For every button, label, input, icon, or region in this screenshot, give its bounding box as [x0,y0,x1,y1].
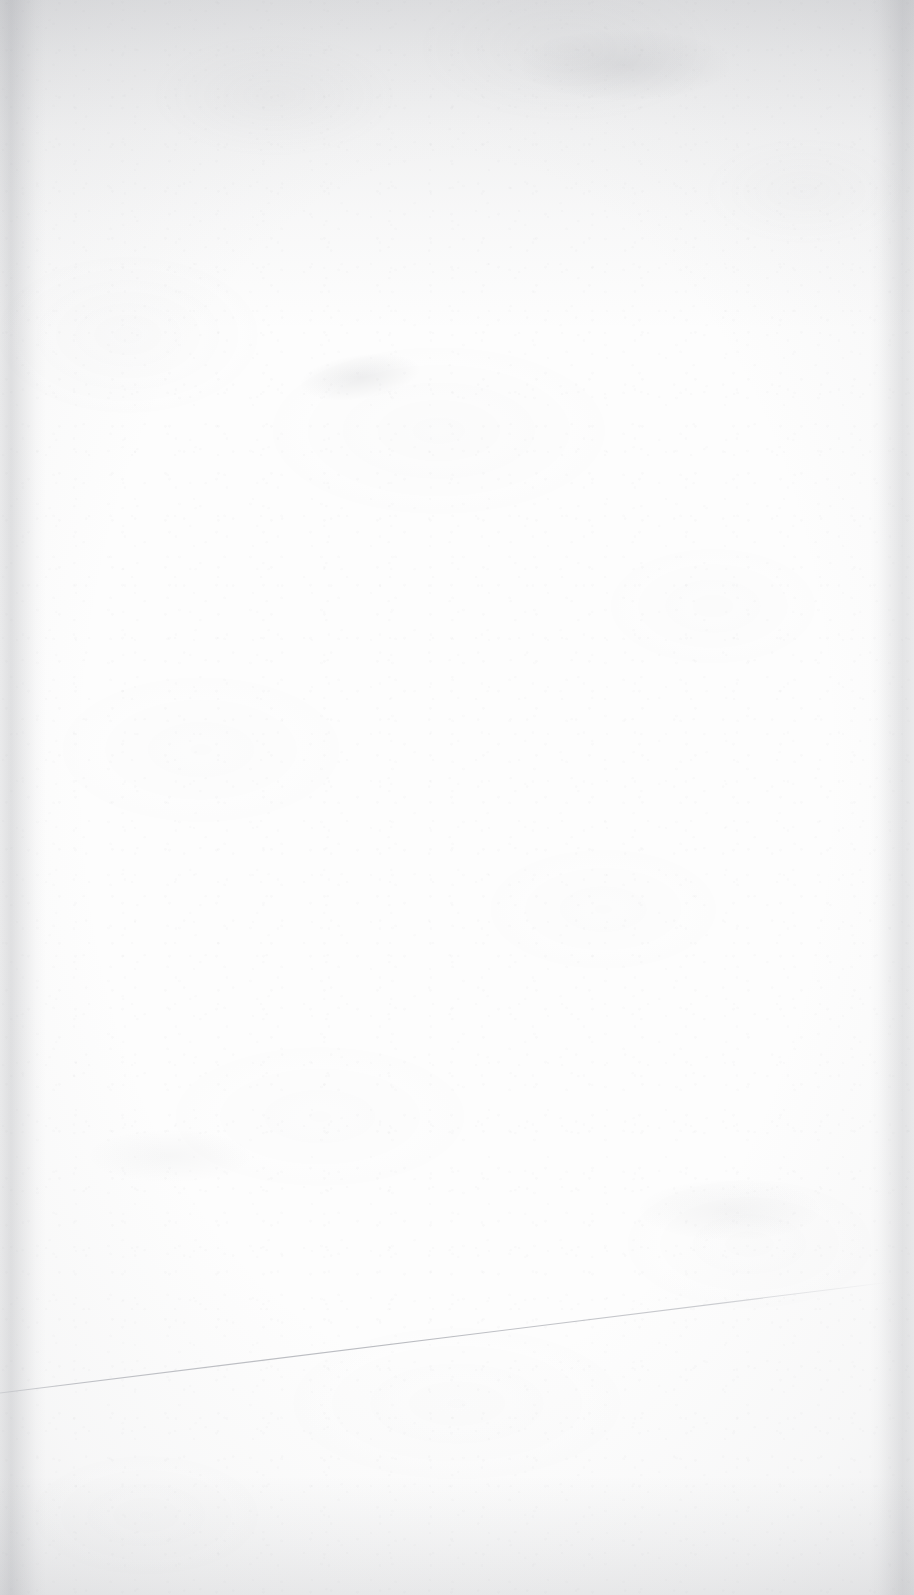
page-content-area [0,0,914,1595]
scanned-page [0,0,914,1595]
